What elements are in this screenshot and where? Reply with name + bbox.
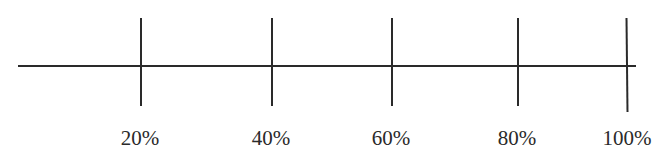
tick-20 (140, 18, 142, 106)
tick-40 (271, 18, 273, 106)
tick-label-80: 80% (498, 126, 537, 151)
tick-label-20: 20% (121, 126, 160, 151)
tick-60 (391, 18, 393, 106)
number-line-axis (18, 65, 636, 67)
tick-80 (517, 18, 519, 106)
tick-label-40: 40% (252, 126, 291, 151)
tick-label-60: 60% (372, 126, 411, 151)
tick-label-100: 100% (603, 126, 652, 151)
